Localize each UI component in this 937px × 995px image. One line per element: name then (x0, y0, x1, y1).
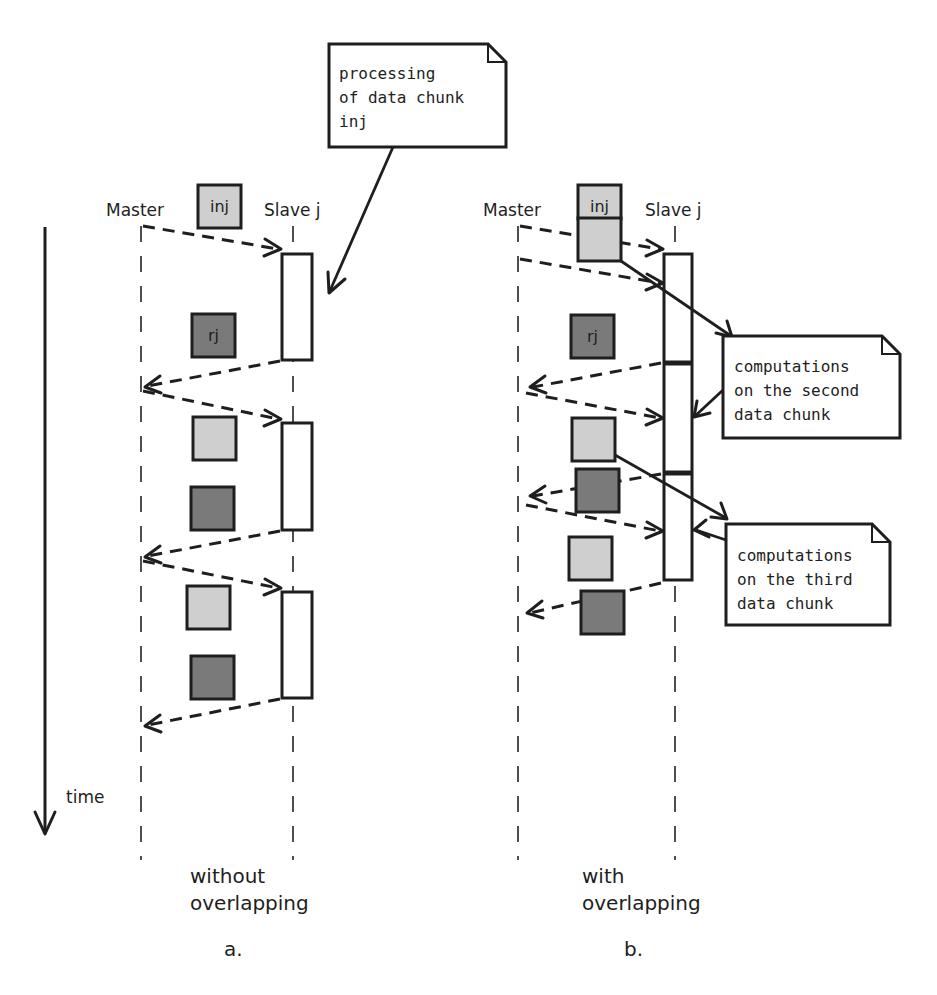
result-chunk-b-2 (576, 469, 619, 512)
input-chunk-a-3 (187, 586, 230, 629)
input-chunk-b: inj (578, 185, 621, 261)
input-chunk-a-2 (193, 417, 236, 460)
panel-b: Master Slave j inj rj (483, 185, 900, 961)
panel-a: Master Slave j inj rj (106, 44, 506, 961)
caption-a-line2: overlapping (190, 891, 309, 915)
input-chunk-b-2 (572, 418, 615, 461)
result-chunk-a-2 (191, 487, 234, 530)
note-second-chunk: computations on the second data chunk (694, 336, 900, 438)
svg-text:inj: inj (339, 112, 368, 131)
svg-text:rj: rj (208, 326, 219, 345)
svg-text:on the third: on the third (737, 570, 853, 589)
input-chunk-b-3 (569, 537, 612, 580)
panel-letter-b: b. (624, 937, 643, 961)
caption-a-line1: without (190, 864, 265, 888)
slave-activation-a-2 (282, 423, 312, 530)
slave-label-a: Slave j (264, 200, 321, 220)
time-label: time (66, 787, 104, 807)
svg-text:data chunk: data chunk (737, 594, 834, 613)
overlap-diagram: time Master Slave j inj rj (0, 0, 937, 995)
result-chunk-a-3 (191, 656, 234, 699)
result-chunk-a-1: rj (192, 314, 235, 357)
slave-activation-b (664, 254, 692, 580)
caption-b-line2: overlapping (582, 891, 701, 915)
svg-text:rj: rj (587, 327, 598, 346)
master-label-a: Master (106, 200, 164, 220)
result-chunk-b-1: rj (571, 315, 614, 358)
slave-label-b: Slave j (645, 200, 702, 220)
panel-letter-a: a. (224, 937, 243, 961)
svg-text:data chunk: data chunk (734, 405, 831, 424)
slave-activation-a-3 (282, 592, 312, 698)
svg-text:of data chunk: of data chunk (339, 88, 465, 107)
note-processing: processing of data chunk inj (328, 44, 506, 293)
slave-activation-a-1 (282, 254, 312, 360)
svg-text:on the second: on the second (734, 381, 859, 400)
master-label-b: Master (483, 200, 541, 220)
input-chunk-a: inj (198, 185, 241, 228)
svg-text:inj: inj (210, 197, 229, 216)
svg-text:computations: computations (737, 546, 853, 565)
svg-text:inj: inj (590, 197, 609, 216)
svg-text:computations: computations (734, 357, 850, 376)
caption-b-line1: with (582, 864, 624, 888)
result-chunk-b-3 (581, 591, 624, 634)
svg-text:processing: processing (339, 64, 435, 83)
time-axis: time (35, 227, 104, 834)
note-third-chunk: computations on the third data chunk (694, 520, 890, 625)
